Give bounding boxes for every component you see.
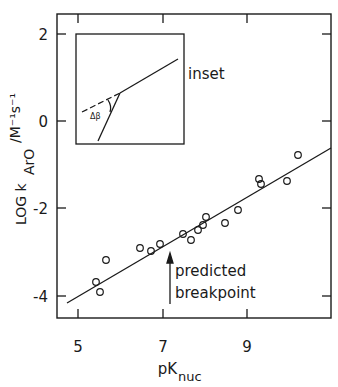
y-tick-label: -2 — [33, 200, 48, 218]
inset-frame — [76, 34, 184, 144]
y-tick-label: 2 — [38, 26, 48, 44]
y-axis-label: LOG k — [13, 182, 29, 225]
x-axis-label: pK — [158, 360, 179, 378]
inset-plot — [82, 59, 178, 141]
inset-angle-label: Δβ — [90, 112, 101, 121]
breakpoint-arrow — [167, 253, 173, 304]
x-tick-label: 9 — [242, 338, 252, 356]
y-tick-label: 0 — [38, 113, 48, 131]
x-tick-label: 7 — [158, 338, 168, 356]
annotation-predicted: predicted — [175, 262, 246, 280]
annotation-breakpoint: breakpoint — [175, 284, 256, 302]
inset-label: inset — [188, 65, 225, 83]
y-tick-label: -4 — [33, 288, 48, 306]
chart: 2 0 -2 -4 5 7 9 pK nuc LOG k ArO /M⁻¹s⁻¹… — [0, 0, 338, 387]
x-axis-label-subscript: nuc — [178, 369, 202, 384]
x-tick-label: 5 — [73, 338, 83, 356]
y-axis-label-units: /M⁻¹s⁻¹ — [7, 93, 23, 143]
y-axis-label-subscript: ArO — [21, 149, 37, 175]
